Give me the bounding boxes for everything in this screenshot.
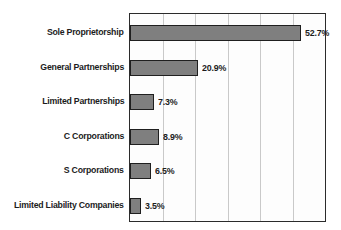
plot-area: 52.7%20.9%7.3%8.9%6.5%3.5% — [129, 13, 326, 222]
category-label: General Partnerships — [40, 59, 124, 75]
bar-value-label: 52.7% — [305, 25, 329, 41]
bar — [130, 163, 151, 179]
bar-value-label: 6.5% — [155, 163, 174, 179]
category-label: Limited Partnerships — [42, 93, 124, 109]
category-label: Sole Proprietorship — [47, 24, 124, 40]
bar-value-label: 7.3% — [158, 94, 177, 110]
bar-row: 20.9% — [130, 60, 325, 76]
bar — [130, 60, 198, 76]
bar-row: 8.9% — [130, 129, 325, 145]
category-label: C Corporations — [64, 128, 124, 144]
bar-value-label: 20.9% — [202, 60, 226, 76]
category-label: S Corporations — [64, 162, 124, 178]
bar-value-label: 3.5% — [145, 198, 164, 214]
bar — [130, 25, 301, 41]
bar-row: 52.7% — [130, 25, 325, 41]
bars-layer: 52.7%20.9%7.3%8.9%6.5%3.5% — [130, 14, 325, 221]
bar-value-label: 8.9% — [163, 129, 182, 145]
bar — [130, 198, 141, 214]
category-label: Limited Liability Companies — [14, 197, 124, 213]
bar — [130, 129, 159, 145]
category-axis: Sole ProprietorshipGeneral PartnershipsL… — [0, 13, 127, 222]
bar-row: 6.5% — [130, 163, 325, 179]
bar-chart: Sole ProprietorshipGeneral PartnershipsL… — [0, 0, 341, 230]
bar-row: 3.5% — [130, 198, 325, 214]
bar-row: 7.3% — [130, 94, 325, 110]
bar — [130, 94, 154, 110]
